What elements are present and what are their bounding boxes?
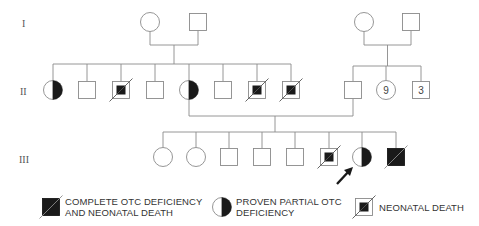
legend-complete-otc-line1: COMPLETE OTC DEFICIENCY	[65, 196, 203, 207]
legend-neonatal-death-icon	[353, 196, 376, 219]
gen2-right-3: 3	[413, 82, 430, 99]
gen2-right-1	[345, 82, 362, 99]
gen2-right-2: 9	[377, 81, 396, 100]
sibling-count-label: 9	[383, 85, 389, 96]
legend-symbol-partial	[213, 198, 232, 217]
legend-symbol-neonatal	[353, 196, 376, 219]
gen1-left-male	[190, 14, 207, 31]
gen2-left-3	[110, 79, 133, 102]
gen3-4	[254, 149, 271, 166]
proband-arrow-icon	[337, 167, 353, 184]
generation-label-1: I	[22, 18, 25, 29]
legend-symbol-complete	[40, 196, 63, 219]
gen3-7	[353, 148, 372, 167]
gen3-5	[287, 149, 304, 166]
gen2-left-6	[215, 82, 232, 99]
sibling-count-label: 3	[418, 85, 424, 96]
gen3-8	[385, 146, 408, 169]
gen3-1	[154, 148, 173, 167]
gen3-2	[187, 148, 206, 167]
gen2-left-2	[79, 82, 96, 99]
generation-label-3: III	[19, 154, 29, 165]
legend-partial-otc-line2: DEFICIENCY	[236, 207, 295, 218]
individuals: 93	[44, 13, 430, 169]
pedigree-chart: I II III 93 COMPLETE OTC DEFICIENCY AND …	[0, 0, 479, 226]
gen1-left-female	[141, 13, 160, 32]
generation-label-2: II	[20, 86, 27, 97]
pedigree-lines	[53, 31, 421, 149]
legend-partial-otc-icon	[213, 198, 232, 217]
gen2-left-4	[147, 82, 164, 99]
legend-neonatal-death-label: NEONATAL DEATH	[379, 202, 464, 213]
legend-partial-otc-line1: PROVEN PARTIAL OTC	[236, 196, 342, 207]
gen2-left-7	[246, 79, 269, 102]
gen1-right-female	[355, 13, 374, 32]
gen2-left-5	[180, 81, 199, 100]
generation-labels: I II III	[19, 18, 29, 165]
gen1-right-male	[403, 14, 420, 31]
gen3-3	[221, 149, 238, 166]
legend: COMPLETE OTC DEFICIENCY AND NEONATAL DEA…	[40, 196, 465, 219]
gen2-left-1	[44, 81, 63, 100]
legend-complete-otc-icon	[40, 196, 63, 219]
gen3-6	[318, 146, 341, 169]
legend-complete-otc-line2: AND NEONATAL DEATH	[65, 207, 173, 218]
gen2-left-8	[280, 79, 303, 102]
